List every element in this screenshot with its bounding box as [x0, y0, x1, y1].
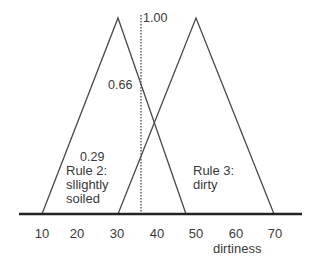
x-axis-label: dirtiness	[213, 242, 261, 256]
x-tick-30: 30	[110, 226, 124, 241]
x-tick-20: 20	[70, 226, 84, 241]
x-tick-50: 50	[189, 226, 203, 241]
membership-label-1-00: 1.00	[143, 12, 167, 26]
x-tick-60: 60	[229, 226, 243, 241]
x-tick-10: 10	[35, 226, 49, 241]
fuzzy-membership-chart	[0, 0, 316, 264]
x-tick-40: 40	[150, 226, 164, 241]
x-tick-70: 70	[268, 226, 282, 241]
rule2-label: Rule 2: sllightly soiled	[66, 164, 109, 206]
rule2-slightly-soiled-triangle	[42, 18, 186, 214]
membership-label-0-66: 0.66	[108, 79, 132, 93]
rule3-label: Rule 3: dirty	[193, 164, 234, 192]
